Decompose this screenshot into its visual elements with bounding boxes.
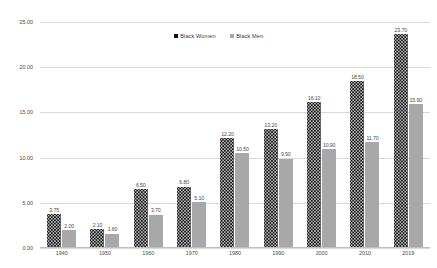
bar-black-men[interactable] (62, 230, 76, 248)
bar-column: 13.20 (264, 22, 278, 248)
bar-black-men[interactable] (235, 153, 249, 248)
bar-group-bars: 13.209.90 (257, 22, 300, 248)
bar-value-label: 3.75 (49, 207, 59, 213)
bar-column: 3.75 (47, 22, 61, 248)
bar-value-label: 6.50 (136, 182, 146, 188)
bar-column: 15.90 (409, 22, 423, 248)
bar-group-bars: 6.503.70 (127, 22, 170, 248)
y-axis-tick-label: 25.00 (20, 19, 34, 25)
bar-column: 2.00 (62, 22, 76, 248)
bar-value-label: 1.60 (108, 226, 118, 232)
bar-value-label: 12.20 (221, 131, 233, 137)
bar-column: 3.70 (149, 22, 163, 248)
bar-column: 18.50 (350, 22, 364, 248)
bar-chart: Black Women Black Men 0.005.0010.0015.00… (0, 0, 437, 268)
bar-column: 10.90 (322, 22, 336, 248)
bar-group: 16.1010.90 (300, 22, 343, 248)
bar-black-women[interactable] (394, 34, 408, 248)
bar-value-label: 3.70 (151, 207, 161, 213)
x-axis-tick-label: 2019 (387, 250, 430, 256)
bar-value-label: 5.10 (194, 195, 204, 201)
bar-value-label: 2.10 (93, 222, 103, 228)
bar-column: 11.70 (365, 22, 379, 248)
bar-value-label: 15.90 (410, 97, 422, 103)
bar-value-label: 6.80 (179, 179, 189, 185)
bar-black-men[interactable] (322, 149, 336, 248)
bar-value-label: 2.00 (64, 223, 74, 229)
bar-value-label: 18.50 (351, 74, 363, 80)
bar-value-label: 23.70 (395, 27, 407, 33)
bar-column: 9.90 (279, 22, 293, 248)
bar-group-bars: 23.7015.90 (387, 22, 430, 248)
y-axis-labels: 0.005.0010.0015.0020.0025.00 (0, 22, 38, 248)
bar-column: 6.50 (134, 22, 148, 248)
bar-group-bars: 16.1010.90 (300, 22, 343, 248)
bar-column: 23.70 (394, 22, 408, 248)
bar-group: 6.805.10 (170, 22, 213, 248)
bar-group: 12.2010.50 (213, 22, 256, 248)
bar-group: 6.503.70 (127, 22, 170, 248)
bar-value-label: 10.50 (236, 146, 248, 152)
bar-group: 2.101.60 (83, 22, 126, 248)
bar-column: 6.80 (177, 22, 191, 248)
y-axis-tick-label: 5.00 (23, 200, 34, 206)
bar-group: 13.209.90 (257, 22, 300, 248)
bar-column: 2.10 (90, 22, 104, 248)
y-axis-tick-label: 15.00 (20, 109, 34, 115)
bar-black-women[interactable] (177, 187, 191, 248)
bar-black-women[interactable] (220, 138, 234, 248)
bar-black-women[interactable] (350, 81, 364, 248)
bar-column: 1.60 (105, 22, 119, 248)
x-axis-tick-label: 1940 (40, 250, 83, 256)
bar-black-men[interactable] (105, 234, 119, 248)
bar-value-label: 10.90 (323, 142, 335, 148)
bar-black-women[interactable] (134, 189, 148, 248)
bar-group-bars: 2.101.60 (83, 22, 126, 248)
x-axis-tick-label: 1990 (257, 250, 300, 256)
bar-groups: 3.752.002.101.606.503.706.805.1012.2010.… (40, 22, 430, 248)
bar-black-women[interactable] (47, 214, 61, 248)
bar-value-label: 16.10 (308, 95, 320, 101)
bar-group: 23.7015.90 (387, 22, 430, 248)
bar-group: 18.5011.70 (343, 22, 386, 248)
gridline (40, 248, 430, 249)
x-axis-tick-label: 1950 (83, 250, 126, 256)
x-axis-tick-label: 1970 (170, 250, 213, 256)
bar-black-men[interactable] (192, 202, 206, 248)
bar-black-women[interactable] (90, 229, 104, 248)
y-axis-tick-label: 20.00 (20, 64, 34, 70)
bar-column: 16.10 (307, 22, 321, 248)
bar-black-women[interactable] (307, 102, 321, 248)
y-axis-tick-label: 10.00 (20, 155, 34, 161)
bar-column: 5.10 (192, 22, 206, 248)
bar-column: 12.20 (220, 22, 234, 248)
bar-group-bars: 3.752.00 (40, 22, 83, 248)
bar-group-bars: 12.2010.50 (213, 22, 256, 248)
plot-area: 3.752.002.101.606.503.706.805.1012.2010.… (40, 22, 430, 248)
x-axis-line (40, 247, 430, 248)
bar-group-bars: 6.805.10 (170, 22, 213, 248)
bar-black-men[interactable] (149, 215, 163, 248)
bar-value-label: 11.70 (366, 135, 378, 141)
bar-black-men[interactable] (279, 159, 293, 248)
bar-black-men[interactable] (365, 142, 379, 248)
bar-black-men[interactable] (409, 104, 423, 248)
x-axis-labels: 194019501960197019801990200020102019 (40, 250, 430, 256)
y-axis-tick-label: 0.00 (23, 245, 34, 251)
bar-group-bars: 18.5011.70 (343, 22, 386, 248)
bar-black-women[interactable] (264, 129, 278, 248)
bar-column: 10.50 (235, 22, 249, 248)
bar-group: 3.752.00 (40, 22, 83, 248)
bar-value-label: 9.90 (281, 151, 291, 157)
x-axis-tick-label: 1980 (213, 250, 256, 256)
x-axis-tick-label: 2010 (343, 250, 386, 256)
bar-value-label: 13.20 (265, 122, 277, 128)
x-axis-tick-label: 1960 (127, 250, 170, 256)
x-axis-tick-label: 2000 (300, 250, 343, 256)
